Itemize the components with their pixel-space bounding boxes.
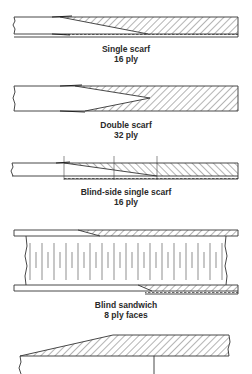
single-scarf-drawing: [13, 16, 238, 37]
blind-sandwich-drawing: [14, 230, 238, 294]
honeycomb-core: [30, 243, 222, 280]
blind-sandwich-subtitle: 8 ply faces: [0, 310, 252, 320]
double-scarf-drawing: [13, 85, 238, 112]
single-scarf-caption: Single scarf 16 ply: [0, 44, 252, 64]
single-scarf-subtitle: 16 ply: [0, 54, 252, 64]
blind-sandwich-caption: Blind sandwich 8 ply faces: [0, 300, 252, 320]
blind-side-scarf-drawing: [11, 156, 238, 180]
blind-side-scarf-subtitle: 16 ply: [0, 197, 252, 207]
blind-side-scarf-caption: Blind-side single scarf 16 ply: [0, 187, 252, 207]
blind-side-scarf-title: Blind-side single scarf: [0, 187, 252, 197]
single-scarf-title: Single scarf: [0, 44, 252, 54]
double-scarf-caption: Double scarf 32 ply: [0, 120, 252, 140]
blind-sandwich-title: Blind sandwich: [0, 300, 252, 310]
double-scarf-title: Double scarf: [0, 120, 252, 130]
double-scarf-subtitle: 32 ply: [0, 130, 252, 140]
partial-bottom-drawing: [19, 335, 230, 374]
